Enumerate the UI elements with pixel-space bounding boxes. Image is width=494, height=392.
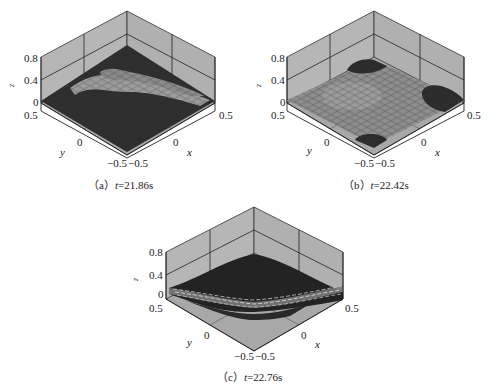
x-tick-0: 0 <box>173 137 179 148</box>
y-tick-0.5: 0.5 <box>271 110 285 121</box>
x-axis-label: x <box>435 147 440 158</box>
z-axis-label: z <box>7 84 18 87</box>
y-tick-0: 0 <box>77 137 83 148</box>
z-tick-0: 0 <box>280 97 286 108</box>
x-tick-0.5: 0.5 <box>345 303 359 314</box>
z-axis-label: z <box>131 278 142 281</box>
z-tick-0: 0 <box>158 289 164 300</box>
panel-b: 0.8 0.4 0 z 0.5 0 −0.5 y −0.5 0 0.5 x （b… <box>247 0 494 196</box>
y-tick-neg0.5: −0.5 <box>354 158 374 169</box>
y-tick-0: 0 <box>204 330 210 341</box>
y-tick-neg0.5: −0.5 <box>234 351 254 362</box>
y-tick-0.5: 0.5 <box>24 110 38 121</box>
x-tick-0: 0 <box>421 137 427 148</box>
z-axis-label: z <box>254 84 265 87</box>
z-tick-0.8: 0.8 <box>149 247 163 258</box>
x-tick-0.5: 0.5 <box>219 110 233 121</box>
z-tick-0.8: 0.8 <box>271 53 285 64</box>
z-tick-0.4: 0.4 <box>149 270 163 281</box>
x-axis-label: x <box>315 339 320 350</box>
caption-a: （a）t=21.86s <box>88 176 153 192</box>
panel-c: 0.8 0.4 0 z 0.5 0 −0.5 y −0.5 0 0.5 x （c… <box>125 196 372 392</box>
y-tick-neg0.5: −0.5 <box>107 158 127 169</box>
panel-a: 0.8 0.4 0 z 0.5 0 −0.5 y −0.5 0 0.5 x （a… <box>0 0 247 196</box>
z-tick-0.4: 0.4 <box>24 75 38 86</box>
y-axis-label: y <box>307 145 312 156</box>
z-tick-0: 0 <box>33 97 39 108</box>
y-tick-0.5: 0.5 <box>149 303 163 314</box>
y-axis-label: y <box>187 337 192 348</box>
x-tick-neg0.5: −0.5 <box>128 158 148 169</box>
x-tick-0.5: 0.5 <box>467 110 481 121</box>
x-tick-0: 0 <box>301 330 307 341</box>
y-tick-0: 0 <box>324 137 330 148</box>
x-axis-label: x <box>187 147 192 158</box>
z-tick-0.8: 0.8 <box>24 53 38 64</box>
x-tick-neg0.5: −0.5 <box>255 351 275 362</box>
caption-b: （b）t=22.42s <box>343 176 409 192</box>
caption-c: （c）t=22.76s <box>217 368 282 384</box>
x-tick-neg0.5: −0.5 <box>375 158 395 169</box>
y-axis-label: y <box>60 147 65 158</box>
z-tick-0.4: 0.4 <box>271 75 285 86</box>
